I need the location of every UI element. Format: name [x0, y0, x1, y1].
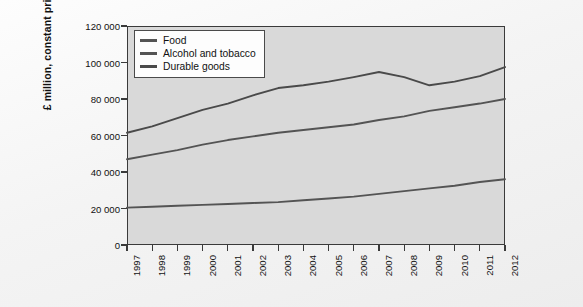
x-tick-mark	[404, 245, 405, 251]
x-tick-label: 2011	[484, 255, 495, 276]
chart-legend: FoodAlcohol and tobaccoDurable goods	[134, 30, 265, 78]
legend-label: Durable goods	[163, 60, 230, 73]
y-tick-label: 80 000	[64, 94, 120, 105]
y-tick-label: 0	[64, 240, 120, 251]
series-line	[127, 99, 505, 159]
x-tick-label: 2002	[257, 255, 268, 276]
legend-item[interactable]: Food	[140, 34, 256, 47]
x-tick-label: 1997	[131, 255, 142, 276]
legend-item[interactable]: Durable goods	[140, 60, 256, 73]
x-tick-mark	[227, 245, 228, 251]
y-tick-label: 120 000	[64, 21, 120, 32]
x-tick-label: 2012	[509, 255, 520, 276]
x-tick-mark	[378, 245, 379, 251]
x-tick-mark	[454, 245, 455, 251]
x-tick-mark	[152, 245, 153, 251]
y-tick-label: 100 000	[64, 57, 120, 68]
x-tick-label: 2000	[207, 255, 218, 276]
x-tick-label: 2007	[383, 255, 394, 276]
y-tick-label: 60 000	[64, 130, 120, 141]
x-tick-mark	[504, 245, 505, 251]
x-tick-label: 2004	[307, 255, 318, 276]
legend-swatch-icon	[140, 39, 157, 41]
x-tick-mark	[479, 245, 480, 251]
x-tick-label: 2006	[358, 255, 369, 276]
page-root: Causes of changes in industrial structur…	[0, 0, 583, 307]
legend-swatch-icon	[140, 52, 157, 54]
x-tick-mark	[353, 245, 354, 251]
x-tick-label: 2001	[232, 255, 243, 276]
line-chart-figure: £ million, constant prices 020 00040 000…	[0, 0, 583, 307]
y-axis-tick-labels: 020 00040 00060 00080 000100 000120 000	[62, 0, 120, 307]
y-tick-label: 40 000	[64, 167, 120, 178]
x-tick-mark	[328, 245, 329, 251]
legend-item[interactable]: Alcohol and tobacco	[140, 47, 256, 60]
y-axis-title: £ million, constant prices	[41, 0, 53, 141]
x-tick-label: 2005	[333, 255, 344, 276]
x-tick-mark	[429, 245, 430, 251]
x-tick-mark	[126, 245, 127, 251]
x-tick-label: 2003	[282, 255, 293, 276]
x-tick-mark	[252, 245, 253, 251]
x-tick-label: 1998	[156, 255, 167, 276]
legend-swatch-icon	[140, 65, 157, 67]
x-tick-mark	[303, 245, 304, 251]
series-line	[127, 179, 505, 207]
legend-label: Alcohol and tobacco	[163, 47, 256, 60]
x-tick-label: 2010	[459, 255, 470, 276]
y-tick-label: 20 000	[64, 203, 120, 214]
x-tick-label: 1999	[181, 255, 192, 276]
legend-label: Food	[163, 34, 186, 47]
x-tick-label: 2008	[408, 255, 419, 276]
x-tick-label: 2009	[433, 255, 444, 276]
x-tick-mark	[177, 245, 178, 251]
x-tick-mark	[202, 245, 203, 251]
x-tick-mark	[278, 245, 279, 251]
